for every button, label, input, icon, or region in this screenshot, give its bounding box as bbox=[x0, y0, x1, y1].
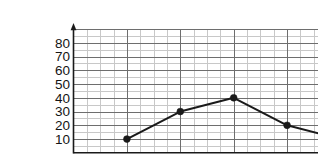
data-point-marker bbox=[284, 122, 291, 129]
y-axis-tick-label: 60 bbox=[55, 63, 70, 78]
x-axis-tick-label: 2 bbox=[177, 160, 185, 162]
data-point-marker bbox=[177, 108, 184, 115]
chart-background bbox=[40, 16, 318, 162]
data-point-marker bbox=[230, 94, 237, 101]
x-axis-tick-label: 4 bbox=[283, 160, 291, 162]
y-axis-tick-label: 30 bbox=[55, 104, 70, 119]
y-axis-tick-label: 10 bbox=[55, 132, 70, 147]
y-axis-tick-label: 80 bbox=[55, 36, 70, 51]
y-axis-tick-labels: 1020304050607080 bbox=[55, 36, 70, 147]
line-chart-figure: 1020304050607080 012345 bbox=[40, 16, 318, 162]
x-axis-tick-label: 0 bbox=[70, 160, 78, 162]
data-point-marker bbox=[124, 136, 131, 143]
y-axis-tick-label: 40 bbox=[55, 91, 70, 106]
screenshot-root: 1020304050607080 012345 bbox=[0, 0, 318, 162]
chart-canvas: 1020304050607080 012345 bbox=[40, 16, 318, 162]
x-axis-tick-label: 3 bbox=[230, 160, 238, 162]
y-axis-tick-label: 20 bbox=[55, 118, 70, 133]
x-axis-tick-label: 1 bbox=[123, 160, 131, 162]
y-axis-tick-label: 50 bbox=[55, 77, 70, 92]
y-axis-tick-label: 70 bbox=[55, 49, 70, 64]
